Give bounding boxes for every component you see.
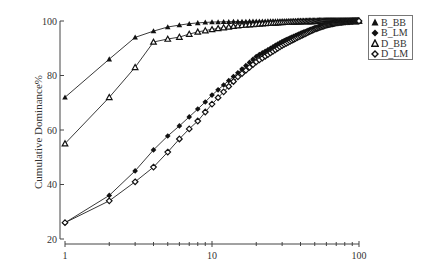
y-tick-label: 100	[42, 16, 57, 27]
legend-item-d-bb: D_BB	[371, 38, 410, 49]
y-tick-label: 40	[47, 179, 57, 190]
legend-label: B_LM	[381, 27, 408, 38]
filled-triangle-icon	[371, 18, 379, 26]
chart-series	[62, 18, 362, 225]
series-b-lm	[62, 18, 362, 225]
legend-label: D_BB	[381, 38, 407, 49]
x-tick-label: 1	[63, 250, 68, 261]
x-tick-label: 10	[207, 250, 217, 261]
legend-label: D_LM	[381, 48, 408, 59]
chart-legend: B_BB B_LM D_BB D_LM	[368, 15, 413, 60]
series-d-lm	[62, 18, 362, 225]
open-diamond-icon	[371, 50, 379, 58]
legend-item-b-bb: B_BB	[371, 17, 410, 28]
legend-item-d-lm: D_LM	[371, 49, 410, 60]
filled-diamond-icon	[371, 29, 379, 37]
y-axis-title: Cumulative Dominance%	[32, 75, 44, 189]
open-triangle-icon	[371, 39, 379, 47]
x-tick-label: 100	[352, 250, 367, 261]
line-chart: 20406080100110100 Cumulative Dominance%	[0, 0, 421, 278]
y-tick-label: 20	[47, 234, 57, 245]
y-tick-label: 80	[47, 70, 57, 81]
legend-item-b-lm: B_LM	[371, 28, 410, 39]
legend-label: B_BB	[381, 17, 406, 28]
chart-axes: 20406080100110100	[42, 16, 367, 262]
y-tick-label: 60	[47, 125, 57, 136]
series-d-bb	[62, 18, 362, 146]
